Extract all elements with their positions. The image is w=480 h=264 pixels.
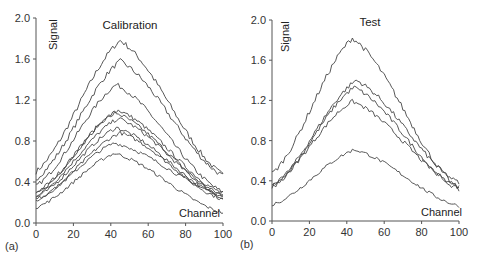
y-tick-label: 0.4 xyxy=(15,176,30,188)
test-ylabel: Signal xyxy=(279,21,291,52)
y-tick-label: 0.8 xyxy=(15,135,30,147)
y-tick-label: 1.2 xyxy=(251,94,266,106)
panel-label-a: (a) xyxy=(5,240,18,252)
x-tick-label: 60 xyxy=(142,228,154,240)
calibration-panel: 0.00.40.81.21.62.0020406080100 Calibrati… xyxy=(5,12,232,252)
x-tick-label: 20 xyxy=(67,228,79,240)
y-tick-label: 0.4 xyxy=(251,175,266,187)
test-curves xyxy=(272,38,459,208)
x-tick-label: 80 xyxy=(179,228,191,240)
x-tick-label: 40 xyxy=(105,228,117,240)
y-tick-label: 0.8 xyxy=(251,135,266,147)
test-panel: 0.00.40.81.21.62.0020406080100 Test Sign… xyxy=(240,14,468,250)
series-line-cal-2 xyxy=(36,59,223,180)
x-tick-label: 40 xyxy=(341,226,353,238)
y-tick-label: 0.0 xyxy=(15,217,30,229)
test-title: Test xyxy=(359,16,381,28)
test-xlabel: Channel xyxy=(421,206,462,218)
calibration-title: Calibration xyxy=(103,19,158,31)
chart-figure: 0.00.40.81.21.62.0020406080100 Calibrati… xyxy=(0,0,480,264)
y-tick-label: 2.0 xyxy=(15,12,30,24)
x-tick-label: 60 xyxy=(378,226,390,238)
y-tick-label: 2.0 xyxy=(251,14,266,26)
calibration-xlabel: Channel xyxy=(179,207,220,219)
x-tick-label: 20 xyxy=(303,226,315,238)
x-tick-label: 0 xyxy=(33,228,39,240)
calibration-curves xyxy=(36,41,223,214)
panel-label-b: (b) xyxy=(240,238,253,250)
y-tick-label: 1.6 xyxy=(251,54,266,66)
series-line-test-2 xyxy=(272,80,459,188)
axis-line xyxy=(272,20,459,221)
series-line-test-4 xyxy=(272,99,459,187)
x-tick-label: 0 xyxy=(269,226,275,238)
series-line-cal-7 xyxy=(36,127,223,199)
x-tick-label: 80 xyxy=(415,226,427,238)
calibration-ylabel: Signal xyxy=(47,19,59,50)
y-tick-label: 1.6 xyxy=(15,53,30,65)
series-line-cal-1 xyxy=(36,41,223,175)
y-tick-label: 1.2 xyxy=(15,94,30,106)
y-tick-label: 0.0 xyxy=(251,215,266,227)
x-tick-label: 100 xyxy=(214,228,232,240)
x-tick-label: 100 xyxy=(450,226,468,238)
series-line-test-3 xyxy=(272,86,459,191)
